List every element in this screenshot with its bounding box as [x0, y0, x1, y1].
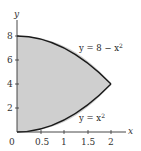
- x-tick-label-1: 1: [61, 137, 67, 147]
- chart: y x 0 0.5 1 1.5 2 8 6 4 2 y = 8 − x2 y =…: [0, 0, 141, 151]
- y-tick-label-4: 4: [7, 79, 13, 89]
- x-tick-label-0.5: 0.5: [35, 137, 50, 147]
- lower-curve-label: y = x2: [78, 112, 105, 123]
- x-tick-label-1.5: 1.5: [81, 137, 96, 147]
- x-axis-label: x: [128, 126, 133, 136]
- upper-curve-label: y = 8 − x2: [78, 42, 123, 53]
- x-tick-label-0: 0: [9, 137, 15, 147]
- x-tick-label-2: 2: [108, 137, 114, 147]
- y-tick-label-2: 2: [7, 103, 13, 113]
- y-tick-label-6: 6: [7, 55, 13, 65]
- y-tick-label-8: 8: [7, 31, 13, 41]
- y-axis-label: y: [13, 9, 20, 19]
